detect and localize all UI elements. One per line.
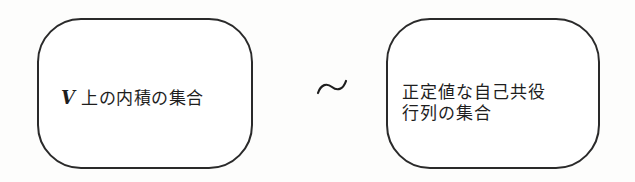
tilde-correspondence-icon xyxy=(315,72,349,102)
inner-products-set-label: V上の内積の集合 xyxy=(61,88,204,108)
inner-products-text: 上の内積の集合 xyxy=(81,88,204,108)
label-line-1: 正定値な自己共役 xyxy=(402,82,546,103)
inner-products-set-box: V上の内積の集合 xyxy=(37,18,253,169)
positive-definite-matrices-box: 正定値な自己共役 行列の集合 xyxy=(386,18,600,169)
label-line-2: 行列の集合 xyxy=(402,103,546,124)
vector-space-variable: V xyxy=(61,87,75,108)
positive-definite-matrices-label: 正定値な自己共役 行列の集合 xyxy=(402,82,546,124)
